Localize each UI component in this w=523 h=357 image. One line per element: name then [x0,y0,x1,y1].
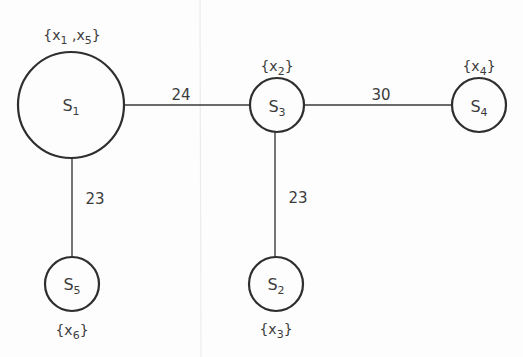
set-label-s4: {x4} [462,58,495,78]
set-label-s2: {x3} [259,321,292,341]
set-label-s5: {x6} [55,322,88,342]
edge-weight-s1-s3: 24 [171,86,190,104]
edge-weight-s1-s5: 23 [85,190,104,208]
edge-weight-s3-s4: 30 [371,86,390,104]
node-label-s1: S1 [62,96,79,118]
set-label-s1: {x1 ,x5} [43,27,100,47]
node-label-s2: S2 [267,275,284,297]
node-label-s5: S5 [63,275,80,297]
graph-canvas [0,0,523,357]
edge-weight-s3-s2: 23 [288,189,307,207]
set-label-s3: {x2} [260,58,293,78]
node-label-s4: S4 [470,97,487,119]
node-label-s3: S3 [268,97,285,119]
page-fold-line [200,0,201,357]
